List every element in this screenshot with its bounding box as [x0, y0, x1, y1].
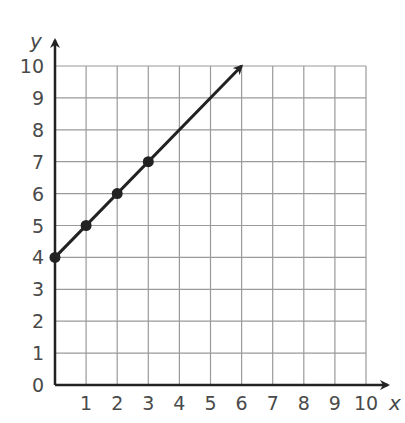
y-tick-label: 4 [32, 246, 44, 268]
data-point [50, 252, 61, 263]
y-tick-label: 9 [32, 87, 44, 109]
coordinate-graph: 12345678910012345678910 x y [0, 0, 405, 423]
y-tick-label: 7 [32, 151, 44, 173]
x-tick-label: 6 [236, 392, 248, 414]
data-point [112, 188, 123, 199]
y-tick-label: 0 [32, 374, 44, 396]
y-axis-label: y [29, 29, 43, 53]
x-tick-label: 2 [111, 392, 123, 414]
y-tick-label: 5 [32, 215, 44, 237]
y-tick-label: 8 [32, 119, 44, 141]
y-tick-label: 10 [20, 55, 44, 77]
x-tick-label: 10 [354, 392, 378, 414]
y-tick-label: 6 [32, 183, 44, 205]
y-tick-label: 1 [32, 342, 44, 364]
data-point [143, 156, 154, 167]
x-tick-label: 3 [142, 392, 154, 414]
y-tick-label: 2 [32, 310, 44, 332]
x-axis-label: x [388, 391, 401, 415]
x-tick-label: 7 [267, 392, 279, 414]
data-series [50, 66, 242, 263]
x-tick-label: 5 [204, 392, 216, 414]
y-tick-label: 3 [32, 278, 44, 300]
grid [55, 66, 366, 385]
x-tick-label: 9 [329, 392, 341, 414]
x-tick-label: 8 [298, 392, 310, 414]
axes [55, 40, 388, 385]
x-tick-label: 1 [80, 392, 92, 414]
x-tick-label: 4 [173, 392, 185, 414]
data-point [81, 220, 92, 231]
